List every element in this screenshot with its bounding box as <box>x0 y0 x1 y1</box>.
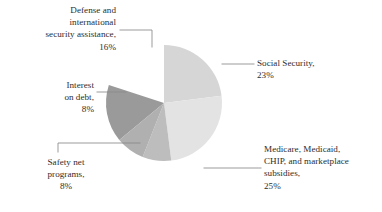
pie-label-defense-and-international-security-assistance: Defense and international security assis… <box>8 4 116 53</box>
pie-label-safety-net-programs: Safety net programs, 8% <box>24 156 108 193</box>
pie-chart-figure: Defense and international security assis… <box>0 0 382 212</box>
pie-slices <box>106 45 222 161</box>
leader-line-defense <box>120 30 152 47</box>
pie-slice-medicare-medicaid-chip-marketplace-subsidies[interactable] <box>164 96 222 161</box>
pie-label-interest-on-debt: Interest on debt, 8% <box>18 79 94 116</box>
pie-label-social-security: Social Security, 23% <box>257 57 375 81</box>
pie-label-medicare-medicaid-chip-marketplace-subsidies: Medicare, Medicaid, CHIP, and marketplac… <box>264 143 380 192</box>
pie-slice-social-security[interactable] <box>164 45 222 103</box>
